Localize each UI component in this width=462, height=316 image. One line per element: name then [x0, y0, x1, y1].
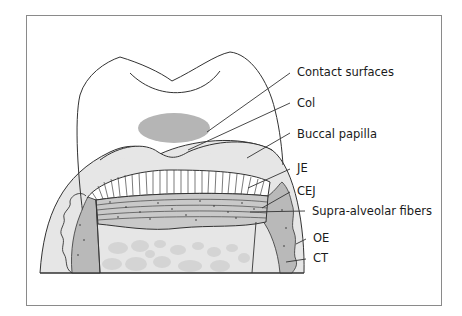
label-oe: OE — [313, 231, 329, 245]
label-contact-surfaces: Contact surfaces — [297, 65, 394, 79]
label-cej: CEJ — [297, 184, 316, 198]
label-col: Col — [297, 96, 315, 110]
periodontium-diagram: Contact surfaces Col Buccal papilla JE C… — [0, 0, 462, 316]
label-buccal-papilla: Buccal papilla — [297, 127, 377, 141]
label-supra-alveolar-fibers: Supra-alveolar fibers — [312, 204, 432, 218]
label-je: JE — [296, 161, 308, 175]
col-shape — [138, 113, 210, 143]
diagram-stage: Contact surfaces Col Buccal papilla JE C… — [0, 0, 462, 316]
label-ct: CT — [313, 251, 329, 265]
